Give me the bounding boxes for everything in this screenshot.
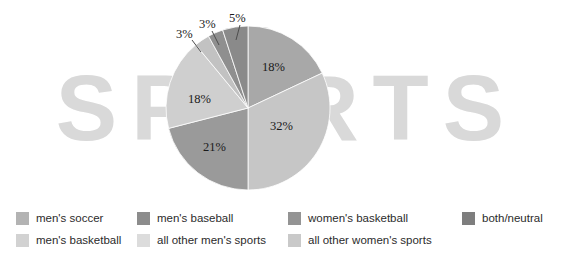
legend-item-all-other-womens-sports[interactable]: all other women's sports	[288, 234, 432, 247]
legend-item-mens-baseball[interactable]: men's baseball	[137, 212, 233, 225]
legend-item-both-neutral[interactable]: both/neutral	[462, 212, 543, 225]
legend-swatch-mens-baseball	[137, 212, 150, 225]
legend-item-womens-basketball[interactable]: women's basketball	[288, 212, 408, 225]
legend-label-all-other-mens-sports: all other men's sports	[157, 234, 266, 247]
legend-label-both-neutral: both/neutral	[482, 212, 543, 225]
legend-label-mens-baseball: men's baseball	[157, 212, 233, 225]
legend-label-mens-basketball: men's basketball	[36, 234, 121, 247]
legend-swatch-both-neutral	[462, 212, 475, 225]
legend-swatch-all-other-womens-sports	[288, 234, 301, 247]
legend-item-mens-basketball[interactable]: men's basketball	[16, 234, 121, 247]
chart-canvas: SPORTS 18% 32% 21% 18% 3% 3% 5% men's so…	[0, 0, 574, 265]
legend-item-all-other-mens-sports[interactable]: all other men's sports	[137, 234, 266, 247]
legend-swatch-mens-soccer	[16, 212, 29, 225]
legend-label-womens-basketball: women's basketball	[308, 212, 408, 225]
legend-label-all-other-womens-sports: all other women's sports	[308, 234, 432, 247]
legend-item-mens-soccer[interactable]: men's soccer	[16, 212, 103, 225]
chart-legend: men's soccer men's basketball men's base…	[0, 208, 574, 260]
legend-swatch-all-other-mens-sports	[137, 234, 150, 247]
legend-swatch-womens-basketball	[288, 212, 301, 225]
legend-label-mens-soccer: men's soccer	[36, 212, 103, 225]
legend-swatch-mens-basketball	[16, 234, 29, 247]
